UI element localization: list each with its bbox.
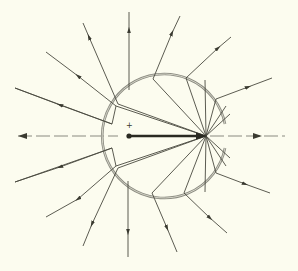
axis-arrow-right-icon bbox=[253, 133, 262, 139]
axis-arrow-left-icon bbox=[18, 133, 27, 139]
charge-dot bbox=[126, 133, 131, 138]
field-lines-svg bbox=[0, 0, 298, 271]
charge-label: + bbox=[126, 122, 133, 130]
charge-vector bbox=[126, 133, 207, 140]
field-diagram: + bbox=[0, 0, 298, 271]
outer-rays bbox=[15, 12, 272, 257]
